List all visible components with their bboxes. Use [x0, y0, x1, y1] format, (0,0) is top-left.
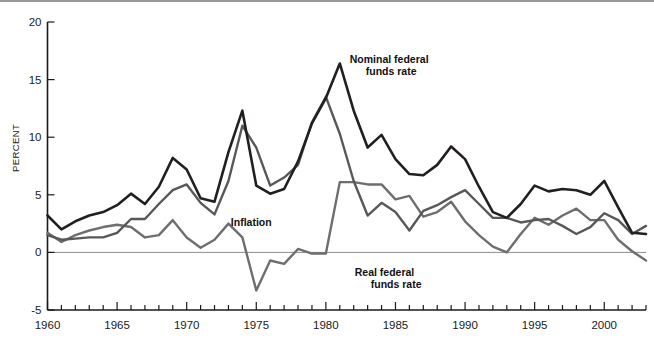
- annotation-line: Real federal: [355, 266, 415, 278]
- chart-svg: -505101520196019651970197519801985199019…: [0, 0, 654, 344]
- y-tick-label: 5: [35, 189, 41, 201]
- series-annotation-real-federal-funds-rate: Real federalfunds rate: [355, 266, 422, 290]
- y-tick-label: 0: [35, 246, 41, 258]
- annotation-line: Inflation: [231, 216, 272, 228]
- x-tick-label: 1975: [243, 319, 269, 331]
- annotation-line: funds rate: [366, 65, 417, 77]
- x-tick-label: 1995: [522, 319, 548, 331]
- y-axis-title: PERCENT: [10, 124, 21, 172]
- x-tick-label: 1985: [383, 319, 409, 331]
- federal-funds-rate-chart: -505101520196019651970197519801985199019…: [0, 0, 654, 344]
- series-line-nominal-federal-funds-rate: [48, 63, 647, 233]
- y-tick-label: 15: [29, 74, 42, 86]
- x-tick-label: 1980: [313, 319, 339, 331]
- x-tick-label: 2000: [591, 319, 617, 331]
- x-tick-label: 1960: [35, 319, 61, 331]
- annotation-line: Nominal federal: [350, 53, 429, 65]
- y-tick-label: 10: [29, 131, 42, 143]
- annotation-line: funds rate: [371, 278, 422, 290]
- y-tick-label: 20: [29, 16, 42, 28]
- series-annotation-nominal-federal-funds-rate: Nominal federalfunds rate: [350, 53, 429, 77]
- series-annotation-inflation: Inflation: [231, 216, 272, 228]
- x-tick-label: 1965: [104, 319, 130, 331]
- y-tick-label: -5: [31, 304, 41, 316]
- x-tick-label: 1990: [452, 319, 478, 331]
- x-tick-label: 1970: [174, 319, 200, 331]
